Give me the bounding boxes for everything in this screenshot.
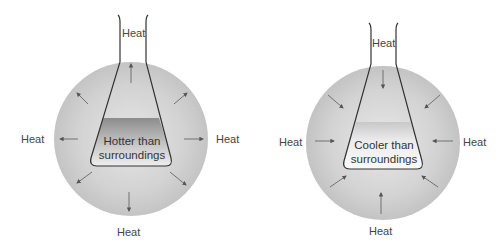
heat-label-top: Heat xyxy=(372,37,395,49)
heat-label-right: Heat xyxy=(463,136,486,148)
heat-label-bottom: Heat xyxy=(369,225,392,237)
panel-hotter xyxy=(54,15,208,216)
flask-label-line2: surroundings xyxy=(344,152,424,166)
diagram-canvas xyxy=(0,0,501,252)
heat-label-bottom: Heat xyxy=(117,226,140,238)
heat-label-left: Heat xyxy=(21,133,44,145)
flask-label-line1: Hotter than xyxy=(92,134,172,148)
heat-label-left: Heat xyxy=(279,136,302,148)
flask-label-line2: surroundings xyxy=(92,148,172,162)
heat-label-right: Heat xyxy=(216,133,239,145)
flask-label-cooler: Cooler than surroundings xyxy=(344,138,424,166)
heat-label-top: Heat xyxy=(122,27,145,39)
flask-label-line1: Cooler than xyxy=(344,138,424,152)
panel-cooler xyxy=(306,23,460,220)
flask-label-hotter: Hotter than surroundings xyxy=(92,134,172,162)
